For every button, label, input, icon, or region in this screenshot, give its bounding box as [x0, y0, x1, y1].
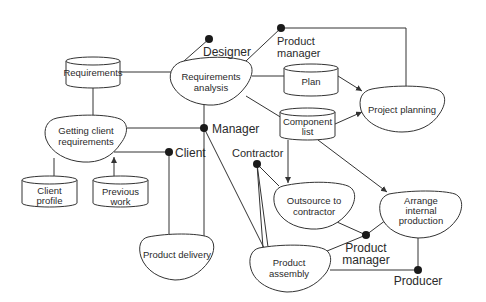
role-label: Product: [277, 35, 315, 47]
process-label: contractor: [293, 206, 335, 217]
role-manager[interactable]: Manager: [200, 122, 259, 136]
process-label: Project planning: [368, 104, 436, 115]
process-product-assembly[interactable]: Product assembly: [250, 245, 331, 292]
role-contractor[interactable]: Contractor: [232, 147, 284, 168]
role-label: Designer: [203, 45, 251, 59]
process-label: production: [399, 215, 443, 226]
role-client[interactable]: Client: [165, 146, 206, 160]
data-store-plan[interactable]: Plan: [284, 64, 338, 96]
edge-plan-planning: [338, 76, 362, 91]
data-store-label: work: [109, 196, 130, 207]
process-arrange-internal-production[interactable]: Arrange internal production: [380, 191, 462, 238]
role-label: manager: [342, 253, 389, 267]
data-store-label: Requirements: [63, 67, 122, 78]
edge-contractor-outsource: [257, 164, 279, 186]
role-product-manager-bottom[interactable]: Product manager: [342, 231, 389, 267]
process-label: Product delivery: [143, 249, 211, 260]
data-store-label: Plan: [301, 76, 320, 87]
data-store-requirements[interactable]: Requirements: [63, 57, 122, 88]
role-label: Manager: [212, 122, 259, 136]
process-label: requirements: [58, 136, 114, 147]
role-label: manager: [277, 47, 321, 59]
process-label: Product: [273, 257, 306, 268]
process-product-delivery[interactable]: Product delivery: [140, 234, 214, 280]
role-label: Client: [175, 146, 206, 160]
edge-analysis-component: [246, 96, 282, 118]
role-label: Contractor: [232, 147, 284, 159]
role-label: Producer: [394, 274, 443, 288]
process-label: analysis: [194, 82, 229, 93]
role-producer[interactable]: Producer: [394, 266, 443, 288]
data-store-client-profile[interactable]: Client profile: [22, 176, 77, 207]
data-store-previous-work[interactable]: Previous work: [93, 176, 148, 207]
process-label: Outsource to: [287, 195, 341, 206]
process-label: Getting client: [58, 125, 114, 136]
process-getting-client-requirements[interactable]: Getting client requirements: [45, 115, 126, 162]
edge-pmb-outsource: [337, 222, 366, 235]
process-outsource-to-contractor[interactable]: Outsource to contractor: [274, 182, 355, 229]
process-label: Requirements: [181, 71, 240, 82]
edge-component-planning: [335, 112, 362, 124]
role-designer[interactable]: Designer: [203, 35, 251, 59]
process-label: assembly: [269, 268, 309, 279]
data-store-label: list: [302, 126, 314, 137]
data-store-component-list[interactable]: Component list: [280, 108, 335, 140]
data-store-label: profile: [37, 195, 63, 206]
process-project-planning[interactable]: Project planning: [360, 86, 445, 132]
process-requirements-analysis[interactable]: Requirements analysis: [170, 57, 252, 105]
role-product-manager-top[interactable]: Product manager: [277, 24, 321, 59]
edge-pm-top-analysis: [246, 28, 281, 61]
